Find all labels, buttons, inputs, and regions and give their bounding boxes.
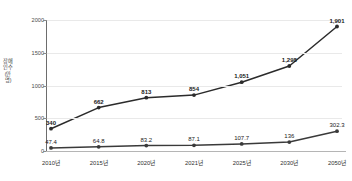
- data-label: 662: [94, 99, 104, 105]
- y-axis-tick-label: 1000: [18, 83, 44, 89]
- data-label: 1,901: [329, 18, 344, 24]
- data-label: 47.4: [45, 139, 57, 145]
- x-axis-tick-label: 2025년: [233, 158, 251, 167]
- y-axis-tick-labels: 0500100015002000: [0, 0, 44, 181]
- data-point-marker: [192, 93, 196, 97]
- data-label: 854: [189, 86, 199, 92]
- y-axis-tick: [43, 86, 47, 87]
- x-axis-line: [46, 151, 346, 152]
- x-axis-tick-label: 2030년: [280, 158, 298, 167]
- data-point-marker: [287, 140, 291, 144]
- series-line: [51, 27, 337, 129]
- y-axis-tick-label: 0: [18, 148, 44, 154]
- gridline: [46, 118, 342, 119]
- data-point-marker: [144, 96, 148, 100]
- data-label: 302.3: [329, 122, 344, 128]
- y-axis-tick: [43, 20, 47, 21]
- data-point-marker: [144, 144, 148, 148]
- x-axis-tick-label: 2021년: [185, 158, 203, 167]
- data-label: 136: [284, 133, 294, 139]
- data-label: 813: [141, 89, 151, 95]
- x-axis-tick-label: 2010년: [42, 158, 60, 167]
- data-label: 107.7: [234, 135, 249, 141]
- data-label: 1,298: [282, 57, 297, 63]
- data-point-marker: [240, 142, 244, 146]
- data-point-marker: [335, 25, 339, 29]
- data-point-marker: [49, 146, 53, 150]
- data-point-marker: [97, 145, 101, 149]
- gridline: [46, 53, 342, 54]
- data-label: 87.1: [188, 136, 200, 142]
- y-axis-tick-label: 1500: [18, 50, 44, 56]
- gridline: [46, 20, 342, 21]
- data-label: 1,051: [234, 73, 249, 79]
- data-label: 340: [46, 120, 56, 126]
- y-axis-tick: [43, 53, 47, 54]
- data-point-marker: [97, 106, 101, 110]
- x-axis-tick-label: 2050년: [328, 158, 346, 167]
- data-point-marker: [192, 143, 196, 147]
- y-axis-tick-label: 2000: [18, 17, 44, 23]
- x-axis-tick-label: 2020년: [137, 158, 155, 167]
- y-axis-tick-label: 500: [18, 115, 44, 121]
- data-point-marker: [49, 127, 53, 131]
- data-label: 64.8: [93, 138, 105, 144]
- data-point-marker: [335, 129, 339, 133]
- x-axis-tick-label: 2015년: [90, 158, 108, 167]
- line-chart: 장애인수(만명) 0500100015002000 2010년2015년2020…: [0, 0, 352, 181]
- data-point-marker: [240, 80, 244, 84]
- data-label: 83.2: [140, 137, 152, 143]
- data-point-marker: [287, 64, 291, 68]
